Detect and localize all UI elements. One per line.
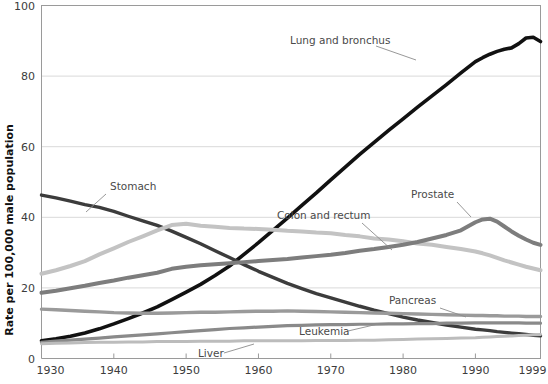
x-tick-label-1960: 1960 [244, 364, 272, 377]
x-tick-label-1950: 1950 [172, 364, 200, 377]
y-tick-label-0: 0 [28, 353, 35, 366]
y-tick-label-20: 20 [21, 282, 35, 295]
series-label-prostate: Prostate [411, 188, 454, 200]
x-tick-label-1940: 1940 [100, 364, 128, 377]
series-label-colon-and-rectum: Colon and rectum [277, 209, 371, 221]
series-label-pancreas: Pancreas [389, 294, 436, 306]
x-tick-label-1999: 1999 [519, 364, 547, 377]
y-axis-title: Rate per 100,000 male population [3, 124, 16, 336]
x-tick-label-1970: 1970 [317, 364, 345, 377]
chart-svg: 19301940195019601970198019901999 0204060… [0, 0, 548, 384]
y-tick-label-80: 80 [21, 70, 35, 83]
series-label-liver: Liver [198, 347, 224, 359]
x-tick-label-1930: 1930 [37, 364, 65, 377]
x-tick-label-1990: 1990 [461, 364, 489, 377]
series-label-stomach: Stomach [110, 180, 156, 192]
y-tick-label-40: 40 [21, 211, 35, 224]
y-tick-label-60: 60 [21, 141, 35, 154]
series-label-leukemia: Leukemia [299, 325, 350, 337]
cancer-death-rate-line-chart: 19301940195019601970198019901999 0204060… [0, 0, 548, 384]
y-tick-label-100: 100 [14, 0, 35, 13]
x-tick-label-1980: 1980 [389, 364, 417, 377]
series-label-lung-and-bronchus: Lung and bronchus [290, 34, 390, 46]
